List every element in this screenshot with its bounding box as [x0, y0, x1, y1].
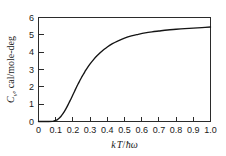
x-axis-title-omega: ω	[131, 139, 138, 150]
x-tick-label-3: 0.3	[84, 125, 97, 135]
x-tick-label-8: 0.8	[170, 125, 183, 135]
x-tick-label-9: 0.9	[187, 125, 200, 135]
x-axis-ticks	[39, 117, 211, 122]
data-curve-einstein	[39, 27, 211, 121]
x-tick-label-1: 0.1	[49, 125, 62, 135]
y-axis-title: Cv, cal/mole-deg	[5, 36, 19, 103]
y-tick-label-5: 5	[29, 30, 34, 40]
x-tick-label-6: 0.6	[135, 125, 148, 135]
y-tick-label-1: 1	[29, 99, 34, 109]
plot-frame	[39, 18, 211, 122]
x-tick-label-5: 0.5	[118, 125, 131, 135]
x-tick-label-4: 0.4	[101, 125, 114, 135]
y-tick-label-4: 4	[29, 47, 34, 57]
x-tick-label-7: 0.7	[153, 125, 166, 135]
y-tick-labels: 0 1 2 3 4 5 6	[29, 13, 34, 127]
x-axis-title-k: k	[111, 139, 116, 150]
y-axis-title-rest: , cal/mole-deg	[5, 36, 16, 93]
y-tick-label-0: 0	[29, 117, 34, 127]
x-tick-label-10: 1.0	[204, 125, 217, 135]
x-tick-label-2: 0.2	[67, 125, 80, 135]
x-tick-label-0: 0	[36, 125, 41, 135]
y-tick-label-3: 3	[29, 65, 34, 75]
y-tick-label-6: 6	[29, 13, 34, 23]
x-axis-title: kT/ħω	[111, 139, 138, 150]
y-axis-ticks	[39, 18, 44, 122]
x-tick-labels: 0 0.1 0.2 0.3 0.4 0.5 0.6 0.7 0.8 0.9 1.…	[36, 125, 217, 135]
chart-figure: 0 1 2 3 4 5 6 0 0.1 0.2 0.3 0.4 0.5 0.6 …	[0, 0, 226, 156]
chart-plot-area: 0 1 2 3 4 5 6 0 0.1 0.2 0.3 0.4 0.5 0.6 …	[0, 0, 226, 156]
y-tick-label-2: 2	[29, 82, 34, 92]
